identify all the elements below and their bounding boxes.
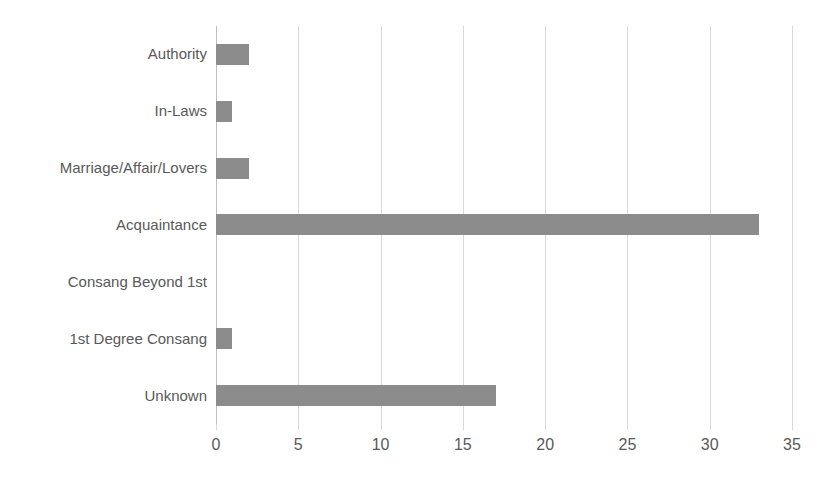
tick-label-25: 25 bbox=[619, 436, 637, 454]
bar-marriage-affair-lovers[interactable] bbox=[216, 158, 249, 179]
tick-mark-0 bbox=[216, 424, 217, 430]
bar-band bbox=[216, 253, 792, 310]
bar-band bbox=[216, 310, 792, 367]
bar-in-laws[interactable] bbox=[216, 101, 232, 122]
gridline-35 bbox=[792, 26, 793, 424]
category-label-acquaintance: Acquaintance bbox=[0, 216, 207, 234]
tick-label-20: 20 bbox=[536, 436, 554, 454]
value-axis: 05101520253035 bbox=[216, 424, 792, 464]
category-label-consang-beyond-1st: Consang Beyond 1st bbox=[0, 273, 207, 291]
bar-unknown[interactable] bbox=[216, 385, 496, 406]
tick-mark-10 bbox=[381, 424, 382, 430]
tick-mark-30 bbox=[710, 424, 711, 430]
bar-band bbox=[216, 26, 792, 83]
bar-band bbox=[216, 367, 792, 424]
bar-1st-degree-consang[interactable] bbox=[216, 328, 232, 349]
tick-mark-35 bbox=[792, 424, 793, 430]
tick-label-30: 30 bbox=[701, 436, 719, 454]
bar-band bbox=[216, 140, 792, 197]
bar-authority[interactable] bbox=[216, 44, 249, 65]
tick-label-35: 35 bbox=[783, 436, 801, 454]
category-label-in-laws: In-Laws bbox=[0, 102, 207, 120]
tick-mark-15 bbox=[463, 424, 464, 430]
category-label-1st-degree-consang: 1st Degree Consang bbox=[0, 330, 207, 348]
tick-mark-25 bbox=[627, 424, 628, 430]
tick-mark-5 bbox=[298, 424, 299, 430]
bar-band bbox=[216, 197, 792, 254]
category-label-unknown: Unknown bbox=[0, 387, 207, 405]
bar-chart: AuthorityIn-LawsMarriage/Affair/LoversAc… bbox=[0, 0, 825, 477]
tick-label-0: 0 bbox=[212, 436, 221, 454]
tick-mark-20 bbox=[545, 424, 546, 430]
category-axis-labels: AuthorityIn-LawsMarriage/Affair/LoversAc… bbox=[0, 26, 207, 424]
bar-band bbox=[216, 83, 792, 140]
tick-label-15: 15 bbox=[454, 436, 472, 454]
category-label-authority: Authority bbox=[0, 45, 207, 63]
category-label-marriage-affair-lovers: Marriage/Affair/Lovers bbox=[0, 159, 207, 177]
plot-area bbox=[216, 26, 792, 424]
tick-label-5: 5 bbox=[294, 436, 303, 454]
tick-label-10: 10 bbox=[372, 436, 390, 454]
bar-acquaintance[interactable] bbox=[216, 214, 759, 235]
